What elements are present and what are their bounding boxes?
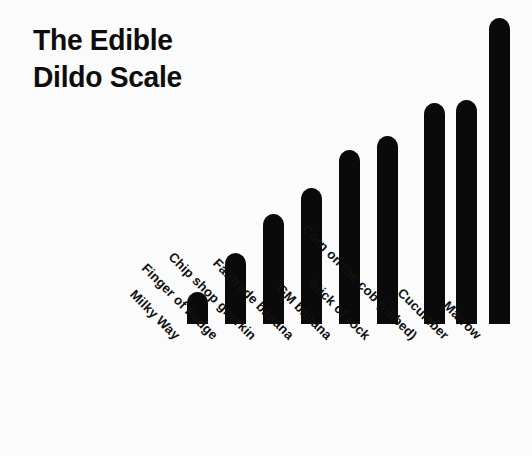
bar (456, 100, 477, 324)
plot-area: Milky WayFinger of FudgeChip shop gherki… (0, 0, 532, 456)
bar (339, 150, 360, 324)
edible-dildo-scale-chart: The Edible Dildo Scale Milky WayFinger o… (0, 0, 532, 456)
bar (424, 103, 445, 324)
bar (489, 18, 510, 324)
